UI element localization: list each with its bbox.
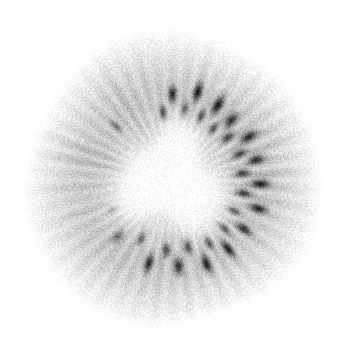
- kiwi-cross-section-photo: [0, 0, 345, 348]
- image-viewport: Grayscale close-up photograph of a kiwif…: [0, 0, 345, 348]
